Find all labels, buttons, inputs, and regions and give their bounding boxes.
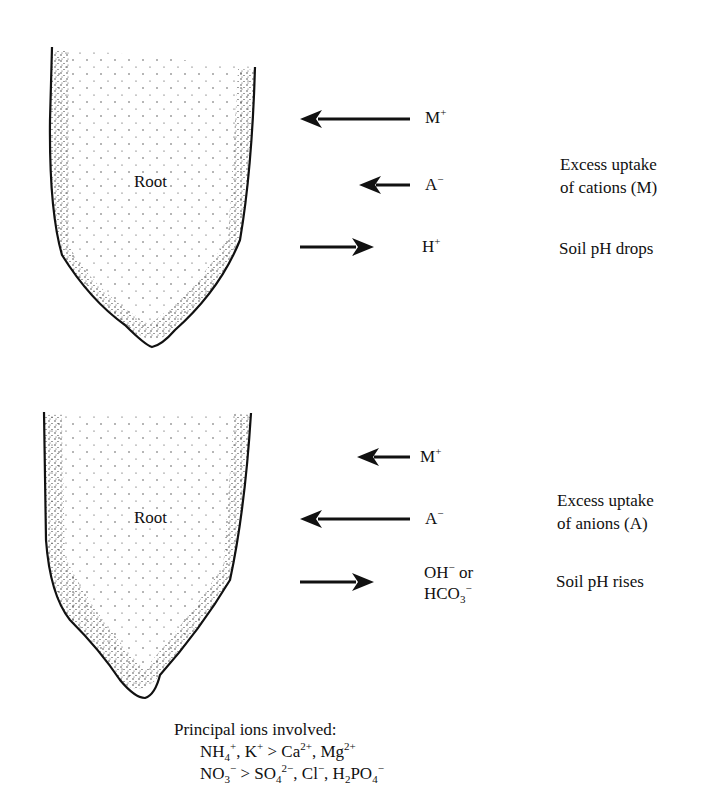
footer-title: Principal ions involved: [174,719,384,741]
ion-charge: − [437,507,443,519]
arrow-a-minus-in-bottom [300,510,410,528]
principal-ions-footer: Principal ions involved: NH4+, K+ > Ca2+… [174,719,384,785]
explanation-top: Excess uptake of cations (M) [560,153,657,199]
explanation-line-1: Excess uptake [557,489,654,512]
ion-symbol: M [425,108,440,127]
explanation-line-2: of cations (M) [560,176,657,199]
ion-charge: + [435,445,441,457]
arrow-oh-out-bottom [300,573,374,591]
ion-symbol: M [420,447,435,466]
ion-symbol: A [425,509,437,528]
arrow-m-plus-in-top [300,110,410,128]
explanation-line-2: of anions (A) [557,512,654,535]
ion-symbol: A [425,175,437,194]
arrow-a-minus-in-top [359,176,410,194]
explanation-line-1: Excess uptake [560,153,657,176]
result-top: Soil pH drops [559,239,653,259]
cations-line: NH4+, K+ > Ca2+, Mg2+ [174,741,384,763]
ion-charge: + [440,106,446,118]
or-text: or [455,563,473,582]
root-bottom [40,405,260,705]
root-label-top: Root [134,172,167,192]
result-bottom: Soil pH rises [556,572,644,592]
ion-symbol: H [422,237,434,256]
root-label-bottom: Root [134,508,167,528]
arrow-h-plus-out-top [300,238,374,256]
ion-label-h-plus-top: H+ [422,237,441,257]
root-top [40,40,270,360]
anions-line: NO3− > SO42−, Cl−, H2PO4− [174,763,384,785]
ion-label-a-minus-bottom: A− [425,509,444,529]
explanation-bottom: Excess uptake of anions (A) [557,489,654,535]
ion-charge: − [437,173,443,185]
ion-charge-2: − [465,582,471,594]
ion-symbol: OH [424,563,449,582]
ion-label-oh-hco3-bottom: OH− or HCO3− [424,562,473,604]
arrow-m-plus-in-bottom [357,448,410,466]
diagram-canvas [0,0,724,791]
ion-charge: + [434,235,440,247]
ion-label-a-minus-top: A− [425,175,444,195]
ion-subscript: 3 [460,593,466,605]
ion-label-m-plus-bottom: M+ [420,447,441,467]
ion-label-m-plus-top: M+ [425,108,446,128]
ion-symbol-2: HCO [424,584,460,603]
